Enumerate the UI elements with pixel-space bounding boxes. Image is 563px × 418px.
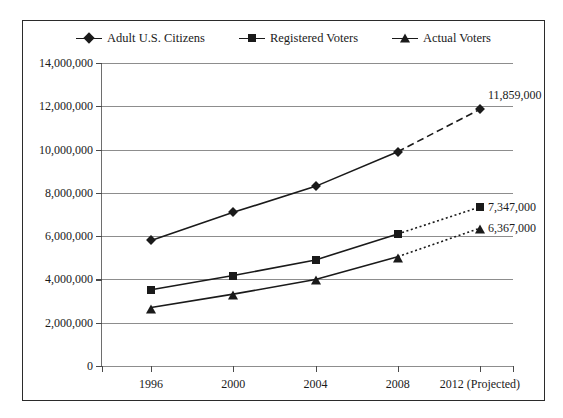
legend-label: Adult U.S. Citizens bbox=[107, 31, 205, 46]
series-line-projected bbox=[398, 228, 480, 257]
triangle-marker-icon bbox=[392, 32, 418, 44]
series-line-solid bbox=[151, 257, 398, 308]
data-point-marker bbox=[228, 291, 238, 300]
series-line-solid bbox=[151, 152, 398, 241]
chart-figure: Adult U.S. Citizens Registered Voters Ac… bbox=[22, 20, 545, 401]
y-axis-tick-label: 12,000,000 bbox=[39, 99, 93, 114]
x-axis-tick bbox=[316, 366, 317, 372]
data-point-label: 7,347,000 bbox=[488, 199, 536, 214]
x-axis-tick bbox=[398, 366, 399, 372]
series-lines bbox=[102, 63, 513, 366]
chart-legend: Adult U.S. Citizens Registered Voters Ac… bbox=[23, 25, 544, 51]
data-point-label: 11,859,000 bbox=[488, 88, 542, 103]
square-marker-icon bbox=[239, 32, 265, 44]
x-axis-tick bbox=[480, 366, 481, 372]
y-axis-tick-label: 2,000,000 bbox=[45, 315, 93, 330]
data-point-marker bbox=[311, 276, 321, 285]
diamond-marker-icon bbox=[76, 32, 102, 44]
x-axis-tick-label: 2004 bbox=[304, 377, 328, 392]
data-point-marker bbox=[475, 225, 485, 234]
series-line-projected bbox=[398, 109, 480, 151]
x-axis-tick-label: 2012 (Projected) bbox=[440, 377, 520, 392]
legend-item-registered-voters[interactable]: Registered Voters bbox=[239, 31, 358, 46]
x-axis-tick bbox=[233, 366, 234, 372]
legend-item-actual-voters[interactable]: Actual Voters bbox=[392, 31, 491, 46]
series-line-projected bbox=[398, 207, 480, 234]
data-point-marker bbox=[393, 253, 403, 262]
y-axis-tick-label: 8,000,000 bbox=[45, 185, 93, 200]
data-point-marker bbox=[146, 304, 156, 313]
y-axis-tick-label: 4,000,000 bbox=[45, 272, 93, 287]
data-point-marker bbox=[229, 272, 237, 280]
x-axis-tick bbox=[151, 366, 152, 372]
data-point-marker bbox=[147, 286, 155, 294]
series-line-solid bbox=[151, 234, 398, 290]
y-axis-tick-label: 14,000,000 bbox=[39, 56, 93, 71]
data-point-label: 6,367,000 bbox=[488, 221, 536, 236]
x-axis-end-tick bbox=[513, 366, 514, 372]
legend-item-adult-us-citizens[interactable]: Adult U.S. Citizens bbox=[76, 31, 205, 46]
data-point-marker bbox=[476, 203, 484, 211]
y-axis-tick-label: 6,000,000 bbox=[45, 229, 93, 244]
x-axis-tick-label: 2008 bbox=[386, 377, 410, 392]
x-axis-tick-label: 2000 bbox=[221, 377, 245, 392]
plot-area: 02,000,0004,000,0006,000,0008,000,00010,… bbox=[102, 63, 513, 366]
legend-label: Actual Voters bbox=[423, 31, 491, 46]
gridline bbox=[102, 366, 513, 367]
data-point-marker bbox=[312, 256, 320, 264]
x-axis-origin-tick bbox=[102, 366, 103, 372]
y-axis-tick-label: 10,000,000 bbox=[39, 142, 93, 157]
legend-label: Registered Voters bbox=[270, 31, 358, 46]
data-point-marker bbox=[394, 230, 402, 238]
y-axis-tick-label: 0 bbox=[87, 359, 93, 374]
x-axis-tick-label: 1996 bbox=[139, 377, 163, 392]
